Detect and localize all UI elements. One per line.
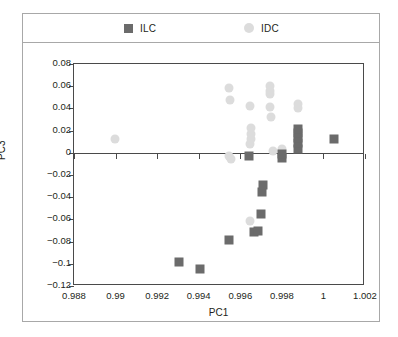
circle-marker-icon (244, 23, 254, 33)
x-tick-label: 1.002 (353, 290, 377, 301)
plot-area: −0.12−0.1−0.08−0.06−0.04−0.0200.020.040.… (73, 63, 364, 285)
x-tick-label: 0.998 (270, 290, 294, 301)
data-point-ilc (195, 264, 204, 273)
data-point-idc (245, 216, 254, 225)
data-point-idc (224, 84, 233, 93)
zero-reference-line (74, 153, 363, 154)
data-point-ilc (224, 235, 233, 244)
x-tick (365, 154, 366, 159)
y-tick-label: 0.06 (53, 79, 72, 90)
y-tick-label: −0.04 (47, 190, 71, 201)
legend-item-idc: IDC (244, 20, 279, 36)
data-point-idc (267, 113, 276, 122)
y-tick-label: −0.12 (47, 279, 71, 290)
data-point-ilc (329, 135, 338, 144)
x-tick (240, 154, 241, 159)
legend-label-idc: IDC (261, 23, 279, 34)
x-axis-title: PC1 (73, 307, 364, 318)
y-tick-label: −0.06 (47, 212, 71, 223)
data-point-ilc (257, 210, 266, 219)
y-tick-label: −0.02 (47, 168, 71, 179)
x-tick-label: 0.992 (145, 290, 169, 301)
y-tick-label: 0.04 (53, 101, 72, 112)
legend-label-ilc: ILC (140, 23, 156, 34)
data-point-ilc (277, 150, 286, 159)
data-point-idc (294, 99, 303, 108)
data-point-idc (266, 82, 275, 91)
y-tick-label: 0.02 (53, 124, 72, 135)
data-point-ilc (244, 152, 253, 161)
x-tick (199, 154, 200, 159)
square-marker-icon (124, 24, 133, 33)
x-tick (323, 154, 324, 159)
x-tick-label: 1 (321, 290, 326, 301)
legend-item-ilc: ILC (124, 20, 156, 36)
x-tick-label: 0.996 (228, 290, 252, 301)
data-point-idc (266, 102, 275, 111)
data-point-ilc (259, 180, 268, 189)
y-tick-label: −0.08 (47, 235, 71, 246)
data-point-idc (110, 134, 119, 143)
x-tick (157, 154, 158, 159)
data-point-idc (245, 102, 254, 111)
figure-container: ILC IDC PC3 −0.12−0.1−0.08−0.06−0.04−0.0… (0, 0, 398, 337)
data-point-idc (226, 154, 235, 163)
y-axis-title: PC3 (0, 141, 7, 160)
data-point-idc (246, 124, 255, 133)
data-point-ilc (294, 124, 303, 133)
data-point-idc (225, 96, 234, 105)
x-tick-label: 0.988 (62, 290, 86, 301)
y-tick-label: 0 (66, 146, 71, 157)
data-point-ilc (174, 258, 183, 267)
x-tick (116, 154, 117, 159)
x-tick (74, 154, 75, 159)
y-tick-label: −0.1 (52, 257, 71, 268)
x-tick-label: 0.99 (106, 290, 125, 301)
y-tick-label: 0.08 (53, 57, 72, 68)
data-point-idc (268, 146, 277, 155)
data-point-ilc (253, 226, 262, 235)
chart-legend: ILC IDC (22, 13, 380, 43)
x-tick-label: 0.994 (187, 290, 211, 301)
